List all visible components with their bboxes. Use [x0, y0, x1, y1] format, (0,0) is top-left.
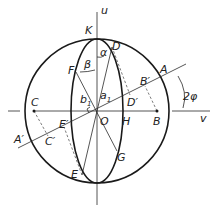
label-v: v [200, 112, 207, 125]
ellipse-construction-diagram: u v K D α F β A B′ 2φ a1 b1 D′ C B O H E… [0, 0, 218, 213]
dash-c-cprime [34, 111, 48, 136]
label-u: u [101, 4, 108, 17]
label-b1: b1 [80, 93, 91, 108]
label-d-prime: D′ [127, 96, 138, 109]
label-a: A [159, 63, 168, 76]
line-f-g [76, 72, 117, 151]
label-a1: a1 [100, 89, 111, 104]
label-alpha: α [100, 46, 108, 59]
point-b [156, 110, 159, 113]
label-g: G [117, 151, 126, 164]
line-a-prime-a [18, 64, 186, 148]
label-f: F [68, 64, 75, 77]
label-c: C [31, 96, 39, 109]
label-beta: β [83, 58, 91, 71]
label-h: H [122, 115, 130, 128]
label-o: O [100, 115, 109, 128]
label-k: K [85, 24, 93, 37]
label-b: B [153, 115, 161, 128]
label-a-prime: A′ [13, 133, 25, 146]
label-two-phi: 2φ [183, 90, 198, 103]
dash-b-bprime [145, 86, 157, 111]
label-d: D [112, 40, 120, 53]
label-e-prime: E′ [59, 118, 69, 131]
label-e: E [71, 168, 78, 181]
point-c [33, 110, 36, 113]
label-c-prime: C′ [45, 135, 56, 148]
label-b-prime: B′ [140, 75, 151, 88]
